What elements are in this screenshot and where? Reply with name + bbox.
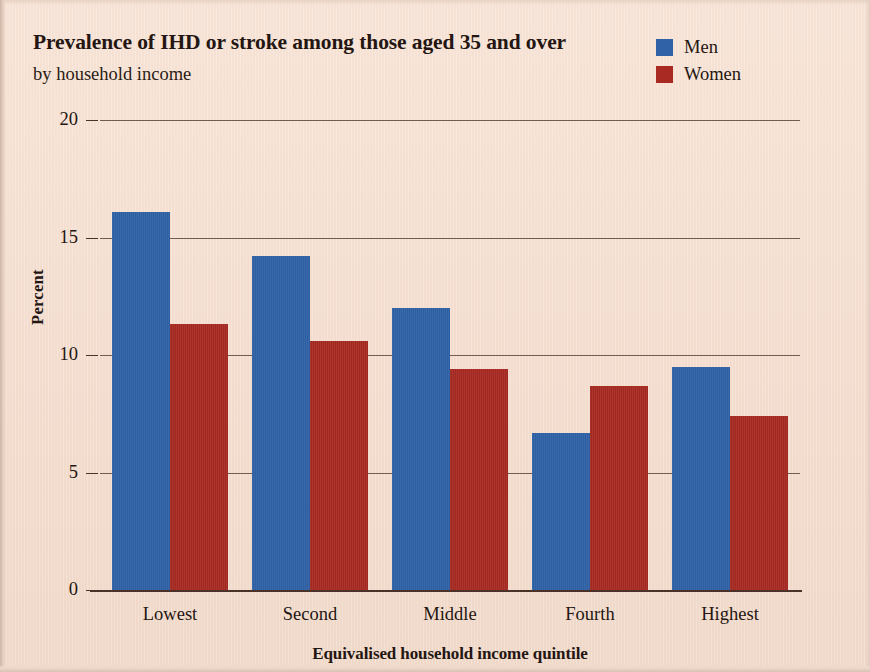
legend-swatch-men [656, 39, 673, 56]
legend-swatch-women [656, 66, 673, 83]
y-axis-label: Percent [28, 269, 48, 325]
bar-women-lowest [170, 324, 228, 590]
bar-men-fourth [532, 433, 590, 590]
page-edge-top [0, 0, 870, 5]
legend-label: Women [684, 65, 741, 84]
page-edge-bottom [0, 665, 870, 672]
legend-item-women: Women [656, 61, 741, 88]
x-tick-label: Second [240, 604, 380, 625]
y-tick-mark-10 [86, 355, 98, 356]
page-edge-right [865, 0, 870, 672]
x-axis-line [90, 590, 802, 592]
bar-men-highest [672, 367, 730, 590]
gridline-20 [100, 120, 800, 121]
y-tick-mark-5 [86, 473, 98, 474]
y-tick-label: 20 [18, 109, 78, 130]
bar-women-middle [450, 369, 508, 590]
y-tick-label: 5 [18, 462, 78, 483]
x-tick-label: Fourth [520, 604, 660, 625]
chart-title: Prevalence of IHD or stroke among those … [33, 30, 566, 55]
x-tick-label: Highest [660, 604, 800, 625]
y-tick-mark-15 [86, 238, 98, 239]
legend-label: Men [684, 38, 718, 57]
x-tick-label: Middle [380, 604, 520, 625]
chart-subtitle: by household income [33, 64, 191, 85]
bar-women-fourth [590, 386, 648, 590]
page-edge-left [0, 0, 6, 672]
bar-women-highest [730, 416, 788, 590]
x-axis-label: Equivalised household income quintile [100, 644, 800, 664]
bar-men-lowest [112, 212, 170, 590]
x-tick-label: Lowest [100, 604, 240, 625]
chart-legend: MenWomen [656, 34, 741, 88]
gridline-15 [100, 238, 800, 239]
bar-men-middle [392, 308, 450, 590]
plot-area: Percent 05101520 LowestSecondMiddleFourt… [100, 120, 800, 590]
bar-men-second [252, 256, 310, 590]
y-tick-label: 0 [18, 579, 78, 600]
y-tick-label: 10 [18, 344, 78, 365]
bar-women-second [310, 341, 368, 590]
y-tick-mark-20 [86, 120, 98, 121]
legend-item-men: Men [656, 34, 741, 61]
y-tick-label: 15 [18, 227, 78, 248]
chart-page: Prevalence of IHD or stroke among those … [0, 0, 870, 672]
